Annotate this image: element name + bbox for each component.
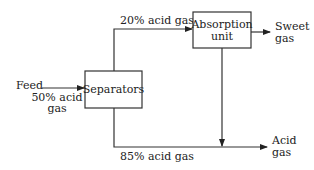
process-flow-diagram: Feed 50% acid gas Separators 20% acid ga… (0, 0, 314, 170)
separators-label: Separators (83, 83, 145, 96)
top-stream-line (114, 29, 192, 71)
absorption-label-line2: unit (211, 30, 234, 43)
bottom-stream-label: 85% acid gas (120, 150, 194, 163)
acid-gas-label-line2: gas (272, 146, 292, 159)
top-stream-label: 20% acid gas (120, 14, 194, 27)
bottom-stream-line (114, 108, 267, 147)
feed-composition-line2: gas (47, 102, 67, 115)
sweet-gas-label-line2: gas (275, 32, 295, 45)
